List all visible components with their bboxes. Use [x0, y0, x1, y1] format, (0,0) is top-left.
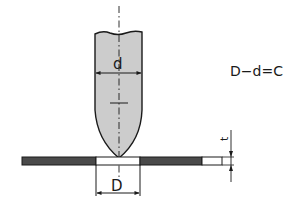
clearance-diagram: d D t D−d=C: [0, 0, 307, 211]
formula-label: D−d=C: [230, 63, 283, 79]
sheet-end: [202, 157, 222, 165]
d-label: d: [113, 55, 123, 73]
hole: [96, 157, 140, 165]
t-label: t: [218, 136, 231, 141]
D-label: D: [111, 177, 123, 195]
sheet-left: [22, 157, 96, 165]
punch: [95, 31, 142, 158]
sheet-right: [140, 157, 202, 165]
